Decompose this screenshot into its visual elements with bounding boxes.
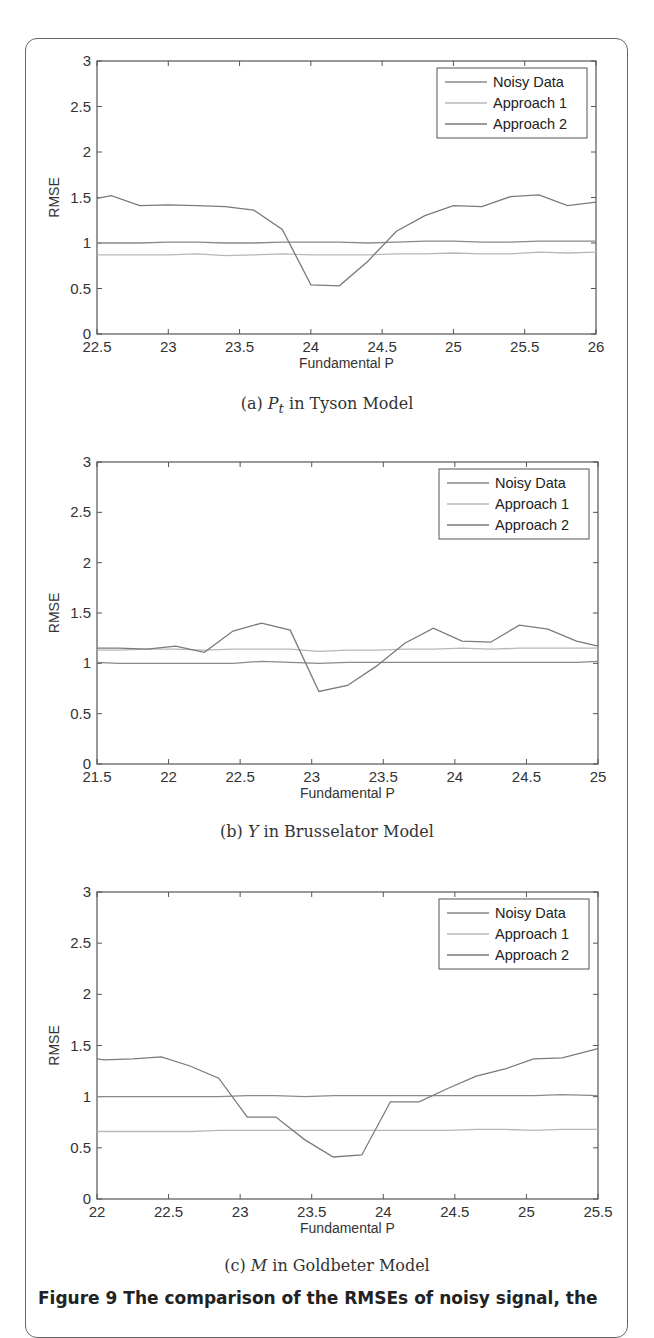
legend-label: Approach 2: [495, 947, 569, 963]
caption-c-suffix: in Goldbeter Model: [267, 1256, 430, 1275]
caption-c-variable: M: [251, 1256, 267, 1275]
legend-label: Approach 1: [495, 926, 569, 942]
y-axis-label: RMSE: [46, 1025, 62, 1065]
plot-c: 00.511.522.532222.52323.52424.52525.5Fun…: [46, 883, 613, 1236]
x-tick-label: 24.5: [440, 1203, 469, 1220]
y-tick-label: 2: [83, 985, 91, 1002]
x-tick-label: 22: [89, 1203, 106, 1220]
x-axis-label: Fundamental P: [300, 1220, 395, 1236]
x-tick-label: 23.5: [297, 1203, 326, 1220]
x-tick-label: 23: [232, 1203, 249, 1220]
legend-label: Noisy Data: [495, 905, 567, 921]
y-tick-label: 1.5: [70, 1037, 91, 1054]
x-tick-label: 25: [518, 1203, 535, 1220]
x-tick-label: 24: [375, 1203, 392, 1220]
y-tick-label: 2.5: [70, 934, 91, 951]
caption-c-prefix: (c): [224, 1256, 251, 1275]
caption-c: (c) M in Goldbeter Model: [0, 1256, 654, 1275]
x-tick-label: 22.5: [154, 1203, 183, 1220]
figure-caption: Figure 9 The comparison of the RMSEs of …: [38, 1288, 628, 1308]
y-tick-label: 1: [83, 1088, 91, 1105]
y-tick-label: 0.5: [70, 1139, 91, 1156]
y-tick-label: 3: [83, 883, 91, 900]
x-tick-label: 25.5: [583, 1203, 612, 1220]
